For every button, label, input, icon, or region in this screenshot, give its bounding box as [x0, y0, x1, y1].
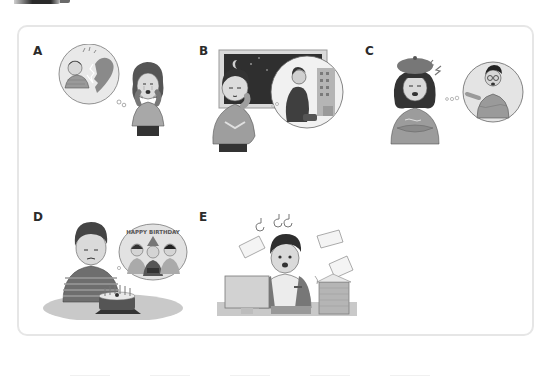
page-footer-faint-lines — [70, 375, 470, 376]
keyboard-icon — [271, 306, 311, 314]
stressed-worker-illustration — [199, 210, 369, 320]
thought-bubble — [59, 44, 126, 107]
birthday-party-bubble: HAPPY BIRTHDAY — [117, 224, 187, 280]
panel-e: E — [199, 210, 369, 320]
section-header-bar-tail — [60, 0, 70, 3]
sad-boy — [63, 222, 119, 302]
memory-bubble — [271, 56, 343, 128]
annoyed-girl-illustration — [365, 44, 535, 159]
panel-d: D — [33, 210, 193, 320]
thinking-boy-illustration — [199, 44, 359, 159]
crying-woman — [132, 62, 164, 136]
exercise-frame: A — [17, 25, 534, 336]
annoyed-girl — [391, 56, 439, 144]
angry-man-bubble — [446, 62, 523, 122]
document-stack — [317, 274, 351, 314]
panel-c: C — [365, 44, 535, 159]
section-header-bar — [14, 0, 60, 4]
panel-b: B — [199, 44, 359, 159]
crying-woman-illustration — [33, 44, 193, 154]
stress-swirl-icon — [256, 214, 292, 231]
computer-icon — [225, 276, 269, 314]
birthday-banner: HAPPY BIRTHDAY — [126, 229, 181, 235]
panel-a: A — [33, 44, 193, 154]
lonely-birthday-illustration: HAPPY BIRTHDAY — [33, 210, 193, 320]
